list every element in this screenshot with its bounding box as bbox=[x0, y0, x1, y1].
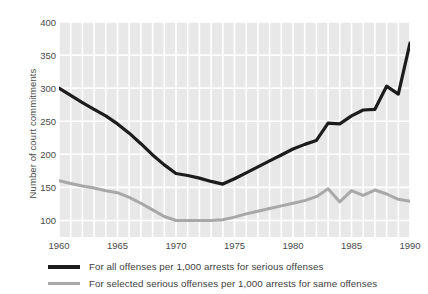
x-tick-label: 1970 bbox=[165, 240, 186, 251]
y-axis-tick-labels: 100150200250300350400 bbox=[24, 22, 56, 237]
y-tick-label: 300 bbox=[24, 83, 56, 94]
y-tick-label: 200 bbox=[24, 149, 56, 160]
y-tick-label: 100 bbox=[24, 215, 56, 226]
vertical-gridlines bbox=[59, 22, 410, 237]
x-axis-tick-labels: 1960196519701975198019851990 bbox=[59, 240, 410, 254]
x-tick-label: 1980 bbox=[282, 240, 303, 251]
plot-svg bbox=[59, 22, 410, 237]
line-chart: Number of court commitments 100150200250… bbox=[0, 0, 428, 294]
x-tick-label: 1975 bbox=[224, 240, 245, 251]
legend-label: For selected serious offenses per 1,000 … bbox=[89, 278, 377, 289]
x-tick-label: 1990 bbox=[399, 240, 420, 251]
legend-item: For all offenses per 1,000 arrests for s… bbox=[0, 258, 428, 275]
y-tick-label: 150 bbox=[24, 182, 56, 193]
y-tick-label: 350 bbox=[24, 50, 56, 61]
legend-label: For all offenses per 1,000 arrests for s… bbox=[89, 261, 323, 272]
x-tick-label: 1965 bbox=[107, 240, 128, 251]
plot-area bbox=[59, 22, 410, 237]
legend-swatch-gray bbox=[48, 282, 80, 285]
y-tick-label: 250 bbox=[24, 116, 56, 127]
legend-item: For selected serious offenses per 1,000 … bbox=[0, 275, 428, 292]
x-tick-label: 1985 bbox=[341, 240, 362, 251]
chart-legend: For all offenses per 1,000 arrests for s… bbox=[0, 258, 428, 292]
x-tick-label: 1960 bbox=[48, 240, 69, 251]
legend-swatch-black bbox=[48, 265, 80, 269]
y-tick-label: 400 bbox=[24, 17, 56, 28]
